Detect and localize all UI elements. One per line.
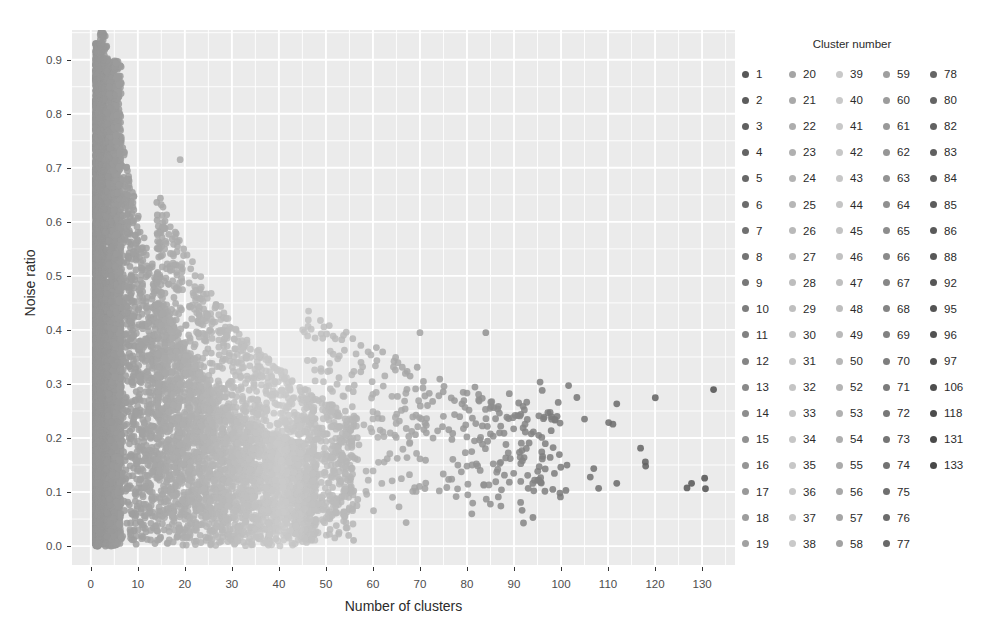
legend-item[interactable]: 70 bbox=[883, 348, 930, 374]
legend-item[interactable]: 72 bbox=[883, 400, 930, 426]
legend-item[interactable]: 18 bbox=[742, 505, 789, 531]
legend-item[interactable]: 82 bbox=[930, 113, 977, 139]
legend-item[interactable]: 61 bbox=[883, 113, 930, 139]
legend-item[interactable]: 6 bbox=[742, 191, 789, 217]
legend-item[interactable]: 16 bbox=[742, 452, 789, 478]
legend-item[interactable]: 31 bbox=[789, 348, 836, 374]
legend-item[interactable]: 58 bbox=[836, 531, 883, 557]
legend-item[interactable]: 71 bbox=[883, 374, 930, 400]
legend-item[interactable]: 60 bbox=[883, 87, 930, 113]
legend-item[interactable]: 73 bbox=[883, 426, 930, 452]
legend-item[interactable]: 2 bbox=[742, 87, 789, 113]
legend-item[interactable]: 14 bbox=[742, 400, 789, 426]
legend-item[interactable]: 48 bbox=[836, 296, 883, 322]
legend-item[interactable]: 33 bbox=[789, 400, 836, 426]
legend-item[interactable]: 17 bbox=[742, 479, 789, 505]
legend-item[interactable]: 25 bbox=[789, 191, 836, 217]
legend-item[interactable]: 65 bbox=[883, 218, 930, 244]
legend-item[interactable]: 86 bbox=[930, 218, 977, 244]
legend-item[interactable]: 40 bbox=[836, 87, 883, 113]
legend-item[interactable]: 46 bbox=[836, 244, 883, 270]
legend-item[interactable]: 118 bbox=[930, 400, 977, 426]
legend-item[interactable]: 38 bbox=[789, 531, 836, 557]
legend-item[interactable]: 68 bbox=[883, 296, 930, 322]
legend-item[interactable]: 44 bbox=[836, 191, 883, 217]
legend-item[interactable]: 34 bbox=[789, 426, 836, 452]
legend-item[interactable]: 4 bbox=[742, 139, 789, 165]
legend-item[interactable]: 57 bbox=[836, 505, 883, 531]
legend-key-dot-icon bbox=[836, 123, 843, 130]
legend-item[interactable]: 106 bbox=[930, 374, 977, 400]
legend-item[interactable]: 62 bbox=[883, 139, 930, 165]
legend-item[interactable]: 10 bbox=[742, 296, 789, 322]
legend-item[interactable]: 24 bbox=[789, 165, 836, 191]
legend-item[interactable]: 54 bbox=[836, 426, 883, 452]
legend-item[interactable]: 32 bbox=[789, 374, 836, 400]
legend-item[interactable]: 74 bbox=[883, 452, 930, 478]
legend-item[interactable]: 5 bbox=[742, 165, 789, 191]
legend-item[interactable]: 45 bbox=[836, 218, 883, 244]
legend-item[interactable]: 64 bbox=[883, 191, 930, 217]
legend-item[interactable]: 80 bbox=[930, 87, 977, 113]
legend-item[interactable]: 66 bbox=[883, 244, 930, 270]
legend-item[interactable]: 67 bbox=[883, 270, 930, 296]
legend-item[interactable]: 49 bbox=[836, 322, 883, 348]
legend-item[interactable]: 85 bbox=[930, 191, 977, 217]
legend-item[interactable]: 36 bbox=[789, 479, 836, 505]
legend-item[interactable]: 7 bbox=[742, 218, 789, 244]
legend-item[interactable]: 20 bbox=[789, 61, 836, 87]
legend-item[interactable]: 23 bbox=[789, 139, 836, 165]
legend-item[interactable]: 30 bbox=[789, 322, 836, 348]
legend-item[interactable]: 52 bbox=[836, 374, 883, 400]
legend-item[interactable]: 43 bbox=[836, 165, 883, 191]
legend-item[interactable]: 19 bbox=[742, 531, 789, 557]
legend-item[interactable]: 37 bbox=[789, 505, 836, 531]
legend-item[interactable]: 42 bbox=[836, 139, 883, 165]
legend-item[interactable]: 75 bbox=[883, 479, 930, 505]
legend-item[interactable]: 22 bbox=[789, 113, 836, 139]
legend-item[interactable]: 84 bbox=[930, 165, 977, 191]
legend-item[interactable]: 56 bbox=[836, 479, 883, 505]
legend-item[interactable]: 21 bbox=[789, 87, 836, 113]
legend-item[interactable]: 27 bbox=[789, 244, 836, 270]
x-axis-title: Number of clusters bbox=[72, 598, 735, 614]
legend-item[interactable]: 50 bbox=[836, 348, 883, 374]
legend-item[interactable]: 78 bbox=[930, 61, 977, 87]
legend-item[interactable]: 35 bbox=[789, 452, 836, 478]
legend-item[interactable]: 28 bbox=[789, 270, 836, 296]
legend-key-dot-icon bbox=[742, 436, 749, 443]
legend-item[interactable]: 1 bbox=[742, 61, 789, 87]
legend-item[interactable]: 9 bbox=[742, 270, 789, 296]
legend-item[interactable]: 95 bbox=[930, 296, 977, 322]
legend-key-dot-icon bbox=[930, 201, 937, 208]
legend-item[interactable]: 63 bbox=[883, 165, 930, 191]
legend-item[interactable]: 15 bbox=[742, 426, 789, 452]
legend-item[interactable]: 133 bbox=[930, 452, 977, 478]
legend-item[interactable]: 26 bbox=[789, 218, 836, 244]
legend-item[interactable]: 12 bbox=[742, 348, 789, 374]
legend-item[interactable]: 13 bbox=[742, 374, 789, 400]
legend-item[interactable]: 92 bbox=[930, 270, 977, 296]
legend-item[interactable]: 96 bbox=[930, 322, 977, 348]
legend-item[interactable]: 77 bbox=[883, 531, 930, 557]
legend-item-label: 68 bbox=[897, 303, 910, 315]
legend-item[interactable]: 83 bbox=[930, 139, 977, 165]
legend-item[interactable]: 29 bbox=[789, 296, 836, 322]
legend-item[interactable]: 69 bbox=[883, 322, 930, 348]
legend-item[interactable]: 39 bbox=[836, 61, 883, 87]
legend-item[interactable]: 76 bbox=[883, 505, 930, 531]
legend-item[interactable]: 41 bbox=[836, 113, 883, 139]
legend-item-label: 67 bbox=[897, 277, 910, 289]
legend-item[interactable]: 8 bbox=[742, 244, 789, 270]
legend-item[interactable]: 59 bbox=[883, 61, 930, 87]
legend-item[interactable]: 11 bbox=[742, 322, 789, 348]
legend-item[interactable]: 97 bbox=[930, 348, 977, 374]
legend-item[interactable]: 55 bbox=[836, 452, 883, 478]
legend-item[interactable]: 88 bbox=[930, 244, 977, 270]
legend-item[interactable]: 47 bbox=[836, 270, 883, 296]
legend-item[interactable]: 131 bbox=[930, 426, 977, 452]
legend-item[interactable]: 3 bbox=[742, 113, 789, 139]
y-tick-mark bbox=[67, 168, 71, 169]
legend-item[interactable]: 53 bbox=[836, 400, 883, 426]
y-tick-mark bbox=[67, 276, 71, 277]
